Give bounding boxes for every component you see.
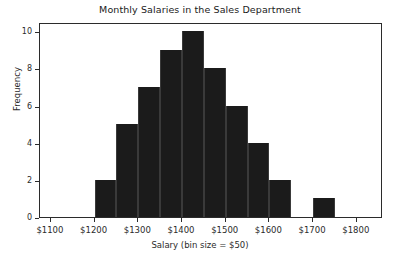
y-axis-tick	[35, 107, 39, 108]
y-axis-tick	[35, 181, 39, 182]
y-axis-tick-label: 8	[0, 64, 32, 73]
histogram-figure: Monthly Salaries in the Sales Department…	[0, 0, 400, 261]
histogram-bar	[116, 124, 138, 217]
x-axis-tick	[137, 218, 138, 222]
plot-area	[39, 23, 382, 218]
y-axis-tick-label: 2	[0, 176, 32, 185]
x-axis-tick	[94, 218, 95, 222]
histogram-bar	[95, 180, 117, 217]
histogram-bar	[226, 106, 248, 217]
y-axis-tick-label: 0	[0, 213, 32, 222]
x-axis-tick	[356, 218, 357, 222]
x-axis-tick	[225, 218, 226, 222]
histogram-bar	[160, 50, 182, 217]
y-axis-tick	[35, 218, 39, 219]
histogram-bar	[269, 180, 291, 217]
y-axis-tick	[35, 144, 39, 145]
x-axis-tick	[50, 218, 51, 222]
bars-container	[40, 24, 381, 217]
x-axis-label: Salary (bin size = $50)	[0, 240, 400, 250]
y-axis-tick	[35, 32, 39, 33]
histogram-bar	[182, 31, 204, 217]
histogram-bar	[138, 87, 160, 217]
chart-title: Monthly Salaries in the Sales Department	[0, 4, 400, 15]
y-axis-label: Frequency	[12, 34, 22, 144]
x-axis-tick	[312, 218, 313, 222]
y-axis-tick-label: 10	[0, 27, 32, 36]
x-axis-tick	[268, 218, 269, 222]
histogram-bar	[313, 198, 335, 217]
y-axis-tick-label: 6	[0, 102, 32, 111]
histogram-bar	[248, 143, 270, 217]
x-axis-tick	[181, 218, 182, 222]
y-axis-tick	[35, 69, 39, 70]
x-axis-tick-label: $1800	[326, 225, 386, 235]
histogram-bar	[204, 68, 226, 217]
y-axis-tick-label: 4	[0, 139, 32, 148]
